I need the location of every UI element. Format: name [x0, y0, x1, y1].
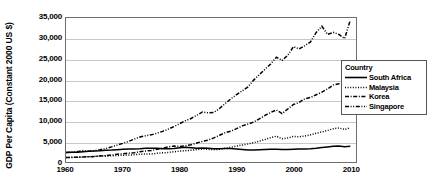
y-axis-tick-labels: 05,00010,00015,00020,00025,00030,00035,0… [18, 0, 62, 191]
legend-label: Malaysia [369, 83, 399, 92]
y-tick-label: 35,000 [18, 13, 62, 21]
plot-area [65, 17, 357, 163]
legend-entries: South AfricaMalaysiaKoreaSingapore [345, 73, 424, 111]
legend-entry-korea[interactable]: Korea [345, 92, 424, 101]
series-line-korea [66, 81, 350, 158]
y-tick-label: 10,000 [18, 117, 62, 125]
legend-title: Country [345, 63, 424, 72]
x-axis-tick-labels: 196019701980199020002010 [0, 165, 431, 179]
legend-entry-singapore[interactable]: Singapore [345, 102, 424, 111]
x-tick-label: 1960 [45, 165, 85, 174]
y-tick-label: 30,000 [18, 34, 62, 42]
legend-label: Korea [369, 92, 389, 101]
y-tick-label: 20,000 [18, 76, 62, 84]
x-tick-label: 2010 [331, 165, 371, 174]
gdp-per-capita-line-chart: GDP Per Capita (Constant 2000 US $) 05,0… [0, 0, 431, 191]
legend-entry-south-africa[interactable]: South Africa [345, 73, 424, 82]
y-tick-label: 15,000 [18, 96, 62, 104]
legend-line-swatch [345, 83, 367, 92]
y-tick-label: 25,000 [18, 55, 62, 63]
y-tick-label: 5,000 [18, 138, 62, 146]
series-lines [66, 18, 356, 162]
x-tick-label: 1970 [102, 165, 142, 174]
series-line-singapore [66, 20, 350, 152]
legend-entry-malaysia[interactable]: Malaysia [345, 83, 424, 92]
y-axis-title: GDP Per Capita (Constant 2000 US $) [0, 0, 18, 191]
legend: Country South AfricaMalaysiaKoreaSingapo… [341, 60, 427, 115]
series-line-malaysia [66, 128, 350, 158]
x-tick-label: 2000 [274, 165, 314, 174]
x-tick-label: 1980 [160, 165, 200, 174]
legend-line-swatch [345, 73, 367, 82]
legend-line-swatch [345, 102, 367, 111]
x-tick-label: 1990 [217, 165, 257, 174]
legend-label: Singapore [369, 102, 404, 111]
legend-line-swatch [345, 92, 367, 101]
legend-label: South Africa [369, 73, 411, 82]
